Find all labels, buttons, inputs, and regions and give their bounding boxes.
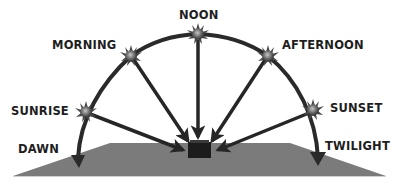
- diagram-canvas: [0, 0, 397, 183]
- arrow-afternoon: [212, 60, 265, 141]
- label-sunset: SUNSET: [330, 103, 382, 115]
- label-twilight: TWILIGHT: [325, 141, 390, 153]
- label-noon: NOON: [179, 10, 219, 22]
- label-morning: MORNING: [52, 40, 116, 52]
- label-afternoon: AFTERNOON: [282, 40, 364, 52]
- observer-box-top: [190, 140, 209, 143]
- label-sunrise: SUNRISE: [11, 106, 69, 118]
- sun-path-diagram: NOON MORNING AFTERNOON SUNRISE SUNSET DA…: [0, 0, 397, 183]
- label-dawn: DAWN: [18, 144, 59, 156]
- arrow-morning: [134, 60, 188, 141]
- observer-box: [188, 142, 211, 158]
